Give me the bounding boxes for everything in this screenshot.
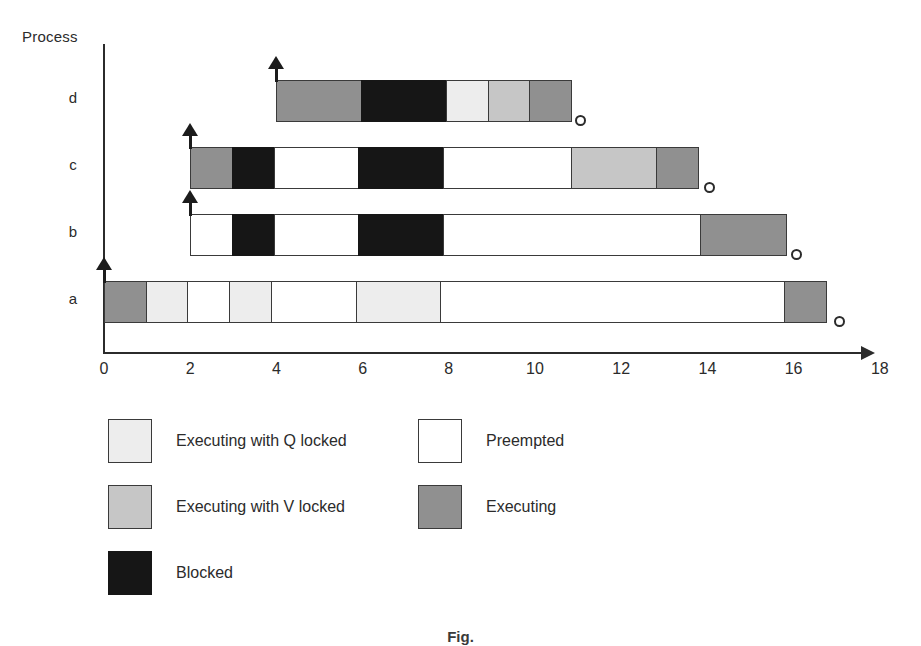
segment-d-executing_q_locked-8 [446, 80, 489, 122]
x-tick-0: 0 [89, 360, 119, 378]
segment-a-executing_q_locked-1 [146, 281, 189, 323]
row-label-d: d [58, 89, 88, 106]
x-tick-8: 8 [434, 360, 464, 378]
segment-c-executing-13 [656, 147, 699, 189]
segment-d-blocked-6 [361, 80, 447, 122]
legend-label-executing_q_locked: Executing with Q locked [176, 432, 347, 450]
gantt-bar-b [190, 214, 793, 256]
release-arrow-b [182, 190, 198, 203]
process-schedule-gantt-chart: Process dcba 024681012141618 Executing w… [0, 0, 921, 646]
segment-d-executing-10 [529, 80, 572, 122]
segment-a-executing-16 [784, 281, 827, 323]
legend-item-executing_q_locked: Executing with Q locked [108, 408, 347, 474]
legend-label-executing: Executing [486, 498, 556, 516]
segment-c-preempted-4 [274, 147, 360, 189]
x-tick-6: 6 [348, 360, 378, 378]
segment-b-preempted-8 [443, 214, 702, 256]
x-tick-2: 2 [175, 360, 205, 378]
row-label-b: b [58, 223, 88, 240]
segment-d-executing-4 [276, 80, 362, 122]
x-tick-14: 14 [692, 360, 722, 378]
release-arrow-a [96, 257, 112, 270]
gantt-bar-d [276, 80, 578, 122]
completion-marker-c [704, 182, 715, 193]
gantt-bar-a [104, 281, 837, 323]
segment-b-blocked-6 [358, 214, 444, 256]
segment-a-preempted-2 [187, 281, 230, 323]
legend-column-left: Executing with Q lockedExecuting with V … [108, 408, 347, 606]
legend-label-executing_v_locked: Executing with V locked [176, 498, 345, 516]
legend-item-preempted: Preempted [418, 408, 564, 474]
segment-c-blocked-6 [358, 147, 444, 189]
x-tick-4: 4 [261, 360, 291, 378]
segment-c-executing_v_locked-11 [571, 147, 657, 189]
row-label-a: a [58, 290, 88, 307]
segment-b-blocked-3 [232, 214, 275, 256]
legend-item-executing: Executing [418, 474, 564, 540]
segment-c-blocked-3 [232, 147, 275, 189]
x-axis-line [103, 352, 863, 354]
completion-marker-b [791, 249, 802, 260]
segment-a-executing_q_locked-6 [356, 281, 442, 323]
row-label-c: c [58, 156, 88, 173]
gantt-bar-c [190, 147, 707, 189]
legend-swatch-executing_q_locked [108, 419, 152, 463]
legend-swatch-executing_v_locked [108, 485, 152, 529]
segment-d-executing_v_locked-9 [488, 80, 531, 122]
release-arrow-c [182, 123, 198, 136]
x-tick-12: 12 [606, 360, 636, 378]
x-tick-16: 16 [779, 360, 809, 378]
segment-a-preempted-8 [440, 281, 785, 323]
release-arrow-d [268, 56, 284, 69]
segment-c-preempted-8 [443, 147, 572, 189]
segment-b-preempted-2 [190, 214, 233, 256]
x-tick-18: 18 [865, 360, 895, 378]
legend-label-preempted: Preempted [486, 432, 564, 450]
y-axis-title: Process [22, 28, 78, 45]
legend-item-blocked: Blocked [108, 540, 347, 606]
completion-marker-a [834, 316, 845, 327]
figure-caption: Fig. [0, 628, 921, 646]
legend-swatch-executing [418, 485, 462, 529]
legend-swatch-blocked [108, 551, 152, 595]
legend-column-right: PreemptedExecuting [418, 408, 564, 540]
legend-item-executing_v_locked: Executing with V locked [108, 474, 347, 540]
segment-b-executing-14 [700, 214, 786, 256]
segment-b-preempted-4 [274, 214, 360, 256]
legend-swatch-preempted [418, 419, 462, 463]
segment-c-executing-2 [190, 147, 233, 189]
x-axis-arrowhead [861, 346, 875, 360]
segment-a-preempted-4 [271, 281, 357, 323]
legend-label-blocked: Blocked [176, 564, 233, 582]
segment-a-executing-0 [104, 281, 147, 323]
x-tick-10: 10 [520, 360, 550, 378]
segment-a-executing_q_locked-3 [229, 281, 272, 323]
completion-marker-d [575, 115, 586, 126]
